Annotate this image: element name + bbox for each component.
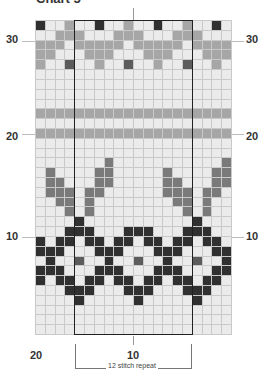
chart-cell [124, 139, 133, 148]
chart-cell [56, 168, 65, 177]
chart-cell [95, 306, 104, 315]
chart-cell [183, 41, 192, 50]
chart-cell [65, 257, 74, 266]
chart-cell [46, 227, 55, 236]
chart-cell [75, 178, 84, 187]
chart-cell [183, 237, 192, 246]
chart-cell [212, 306, 221, 315]
chart-cell [173, 178, 182, 187]
chart-cell [95, 227, 104, 236]
chart-cell [85, 286, 94, 295]
chart-cell [46, 286, 55, 295]
chart-cell [105, 257, 114, 266]
chart-cell [114, 315, 123, 324]
chart-cell [65, 217, 74, 226]
chart-cell [183, 60, 192, 69]
chart-cell [134, 50, 143, 59]
chart-cell [193, 80, 202, 89]
chart-cell [163, 188, 172, 197]
chart-cell [193, 109, 202, 118]
chart-cell [163, 178, 172, 187]
chart-cell [95, 266, 104, 275]
chart-cell [154, 188, 163, 197]
chart-cell [154, 237, 163, 246]
chart-cell [124, 178, 133, 187]
row-30-tick-right [232, 41, 244, 42]
chart-cell [183, 109, 192, 118]
chart-cell [46, 129, 55, 138]
chart-cell [173, 237, 182, 246]
chart-cell [85, 119, 94, 128]
chart-cell [124, 109, 133, 118]
chart-cell [203, 139, 212, 148]
chart-cell [203, 21, 212, 30]
chart-cell [154, 50, 163, 59]
chart-cell [75, 109, 84, 118]
chart-cell [65, 60, 74, 69]
chart-cell [134, 217, 143, 226]
chart-cell [173, 80, 182, 89]
chart-cell [212, 188, 221, 197]
chart-cell [36, 21, 45, 30]
chart-cell [203, 90, 212, 99]
chart-cell [65, 80, 74, 89]
chart-cell [95, 168, 104, 177]
chart-cell [203, 149, 212, 158]
chart-cell [124, 70, 133, 79]
chart-cell [36, 257, 45, 266]
chart-cell [173, 119, 182, 128]
chart-cell [85, 217, 94, 226]
chart-cell [203, 286, 212, 295]
chart-cell [75, 198, 84, 207]
chart-cell [36, 50, 45, 59]
chart-cell [173, 286, 182, 295]
chart-cell [36, 129, 45, 138]
chart-cell [193, 325, 202, 334]
chart-cell [56, 21, 65, 30]
chart-cell [46, 306, 55, 315]
chart-cell [203, 257, 212, 266]
chart-cell [134, 286, 143, 295]
chart-cell [56, 119, 65, 128]
chart-cell [75, 306, 84, 315]
chart-cell [124, 198, 133, 207]
chart-cell [75, 139, 84, 148]
chart-cell [75, 90, 84, 99]
row-label-10-right: 10 [246, 230, 258, 242]
center-tick-top [133, 8, 134, 20]
chart-cell [154, 129, 163, 138]
chart-cell [95, 158, 104, 167]
chart-cell [193, 21, 202, 30]
chart-cell [65, 41, 74, 50]
chart-cell [144, 207, 153, 216]
chart-cell [114, 227, 123, 236]
chart-cell [36, 119, 45, 128]
chart-title: Chart 5 [36, 0, 81, 6]
chart-cell [134, 198, 143, 207]
chart-cell [124, 257, 133, 266]
chart-cell [193, 306, 202, 315]
chart-cell [173, 198, 182, 207]
chart-cell [105, 149, 114, 158]
chart-cell [212, 119, 221, 128]
chart-cell [46, 60, 55, 69]
chart-cell [193, 207, 202, 216]
chart-cell [46, 139, 55, 148]
chart-cell [212, 178, 221, 187]
chart-cell [183, 296, 192, 305]
chart-cell [46, 90, 55, 99]
chart-cell [95, 139, 104, 148]
chart-cell [163, 325, 172, 334]
chart-cell [36, 227, 45, 236]
chart-cell [36, 325, 45, 334]
chart-cell [36, 80, 45, 89]
chart-cell [173, 60, 182, 69]
chart-cell [154, 207, 163, 216]
chart-cell [56, 139, 65, 148]
chart-cell [114, 207, 123, 216]
chart-cell [114, 178, 123, 187]
chart-cell [173, 276, 182, 285]
chart-cell [163, 207, 172, 216]
chart-cell [163, 109, 172, 118]
chart-cell [36, 168, 45, 177]
